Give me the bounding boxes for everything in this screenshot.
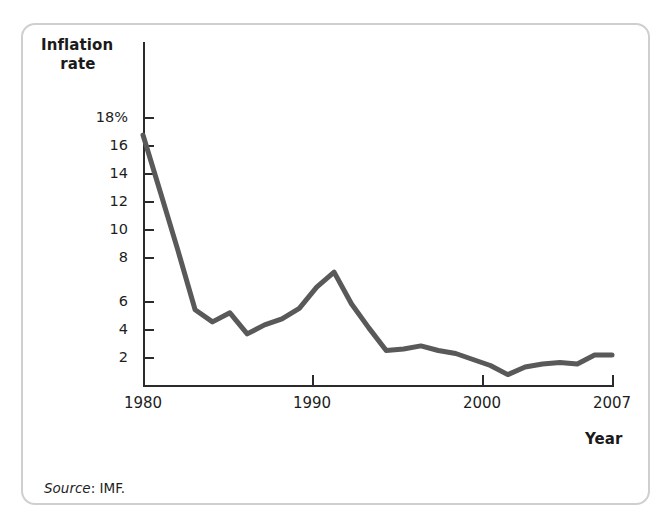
series-layer <box>0 0 670 529</box>
source-label: Source <box>44 480 91 496</box>
inflation-rate-line-chart: Inflation rate Year 18% 16 14 12 10 8 6 … <box>0 0 670 529</box>
inflation-rate-series-line <box>143 135 612 375</box>
source-note: Source: IMF. <box>44 480 125 496</box>
source-value: : IMF. <box>91 480 125 496</box>
